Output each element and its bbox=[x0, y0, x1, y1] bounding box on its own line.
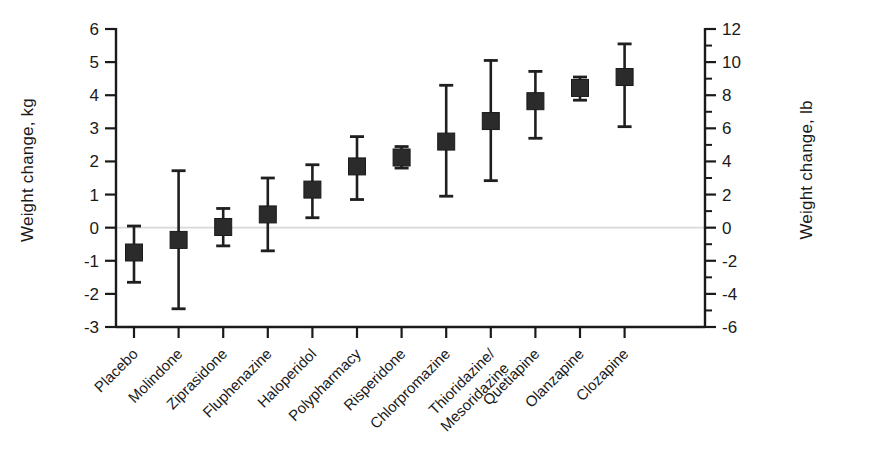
data-point-group bbox=[393, 147, 410, 169]
data-point-marker bbox=[215, 219, 232, 236]
y-axis-left-tick-label: 3 bbox=[90, 119, 99, 138]
data-point-marker bbox=[304, 181, 321, 198]
y-axis-right-tick-label: -6 bbox=[722, 318, 737, 337]
y-axis-left-tick-label: 5 bbox=[90, 53, 99, 72]
data-point-marker bbox=[259, 206, 276, 223]
data-point-marker bbox=[572, 79, 589, 96]
data-point-marker bbox=[527, 93, 544, 110]
y-axis-left-tick-label: -1 bbox=[84, 252, 99, 271]
data-point-group bbox=[215, 208, 232, 245]
data-point-group bbox=[438, 85, 455, 196]
data-point-marker bbox=[170, 231, 187, 248]
y-axis-left-tick-label: 6 bbox=[90, 20, 99, 39]
plot-area: -3-2-10123456-6-4-2024681012PlaceboMolin… bbox=[0, 0, 873, 463]
data-point-marker bbox=[482, 113, 499, 130]
data-point-marker bbox=[349, 158, 366, 175]
data-point-group bbox=[527, 71, 544, 138]
y-axis-right-tick-label: -4 bbox=[722, 285, 737, 304]
data-point-group bbox=[259, 178, 276, 251]
data-point-marker bbox=[616, 69, 633, 86]
data-point-marker bbox=[393, 149, 410, 166]
y-axis-right-tick-label: 0 bbox=[722, 219, 731, 238]
y-axis-right-tick-label: 8 bbox=[722, 86, 731, 105]
y-axis-right-tick-label: 6 bbox=[722, 119, 731, 138]
y-axis-right-tick-label: 12 bbox=[722, 20, 741, 39]
y-axis-right-tick-label: -2 bbox=[722, 252, 737, 271]
data-point-group bbox=[170, 171, 187, 309]
data-point-group bbox=[616, 44, 633, 127]
y-axis-right-tick-label: 4 bbox=[722, 152, 731, 171]
y-axis-left-tick-label: -3 bbox=[84, 318, 99, 337]
data-point-group bbox=[482, 60, 499, 180]
y-axis-left-tick-label: 1 bbox=[90, 186, 99, 205]
chart-figure: Weight change, kg Weight change, lb -3-2… bbox=[0, 0, 873, 463]
y-axis-left-tick-label: -2 bbox=[84, 285, 99, 304]
y-axis-right-tick-label: 10 bbox=[722, 53, 741, 72]
data-point-marker bbox=[438, 133, 455, 150]
data-point-group bbox=[349, 137, 366, 200]
y-axis-right-tick-label: 2 bbox=[722, 186, 731, 205]
y-axis-left-tick-label: 2 bbox=[90, 152, 99, 171]
data-point-marker bbox=[126, 244, 143, 261]
data-point-group bbox=[572, 77, 589, 100]
data-point-group bbox=[304, 165, 321, 218]
y-axis-left-tick-label: 4 bbox=[90, 86, 99, 105]
y-axis-left-tick-label: 0 bbox=[90, 219, 99, 238]
data-point-group bbox=[126, 226, 143, 282]
